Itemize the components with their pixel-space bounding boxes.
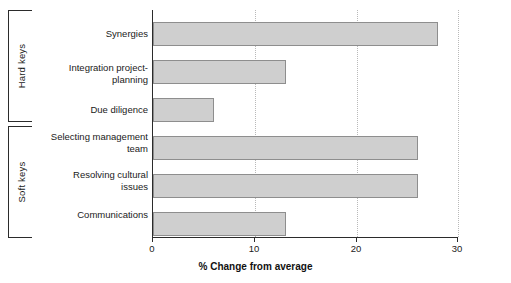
category-label-resolving-cultural-issues: Resolving cultural issues xyxy=(30,169,148,192)
bar-synergies xyxy=(153,22,438,46)
x-tick-label-10: 10 xyxy=(249,243,260,254)
category-label-integration-project-planning: Integration project- planning xyxy=(30,62,148,85)
x-tick-mark-30 xyxy=(457,238,458,242)
x-tick-label-30: 30 xyxy=(452,243,463,254)
category-label-selecting-management-team-line2: team xyxy=(30,143,148,155)
category-label-selecting-management-team-line1: Selecting management xyxy=(30,131,148,143)
category-label-synergies: Synergies xyxy=(30,28,148,40)
x-axis-title: % Change from average xyxy=(0,261,511,272)
bar-chart: Hard keys Soft keys Synergies Integratio… xyxy=(0,0,511,283)
group-label-hard-keys: Hard keys xyxy=(15,44,26,89)
bar-integration-project-planning xyxy=(153,60,286,84)
category-label-communications-line1: Communications xyxy=(30,209,148,221)
group-bracket-column: Hard keys Soft keys xyxy=(8,10,32,238)
x-tick-mark-0 xyxy=(152,238,153,242)
category-label-selecting-management-team: Selecting management team xyxy=(30,131,148,154)
category-label-integration-project-planning-line2: planning xyxy=(30,74,148,86)
bar-selecting-management-team xyxy=(153,136,418,160)
category-label-integration-project-planning-line1: Integration project- xyxy=(30,62,148,74)
x-tick-label-20: 20 xyxy=(351,243,362,254)
category-label-communications: Communications xyxy=(30,209,148,221)
category-label-due-diligence-line1: Due diligence xyxy=(30,104,148,116)
group-bracket-soft-keys: Soft keys xyxy=(8,126,32,238)
group-bracket-hard-keys: Hard keys xyxy=(8,10,32,122)
plot-area xyxy=(152,10,458,238)
x-tick-mark-10 xyxy=(254,238,255,242)
gridline-30 xyxy=(458,10,459,237)
category-label-synergies-line1: Synergies xyxy=(30,28,148,40)
category-label-due-diligence: Due diligence xyxy=(30,104,148,116)
category-label-resolving-cultural-issues-line1: Resolving cultural xyxy=(30,169,148,181)
bar-communications xyxy=(153,212,286,236)
category-label-column: Synergies Integration project- planning … xyxy=(30,10,152,238)
category-label-resolving-cultural-issues-line2: issues xyxy=(30,181,148,193)
x-tick-label-0: 0 xyxy=(149,243,154,254)
bar-resolving-cultural-issues xyxy=(153,174,418,198)
group-label-soft-keys: Soft keys xyxy=(15,162,26,203)
x-tick-mark-20 xyxy=(356,238,357,242)
bar-due-diligence xyxy=(153,98,214,122)
